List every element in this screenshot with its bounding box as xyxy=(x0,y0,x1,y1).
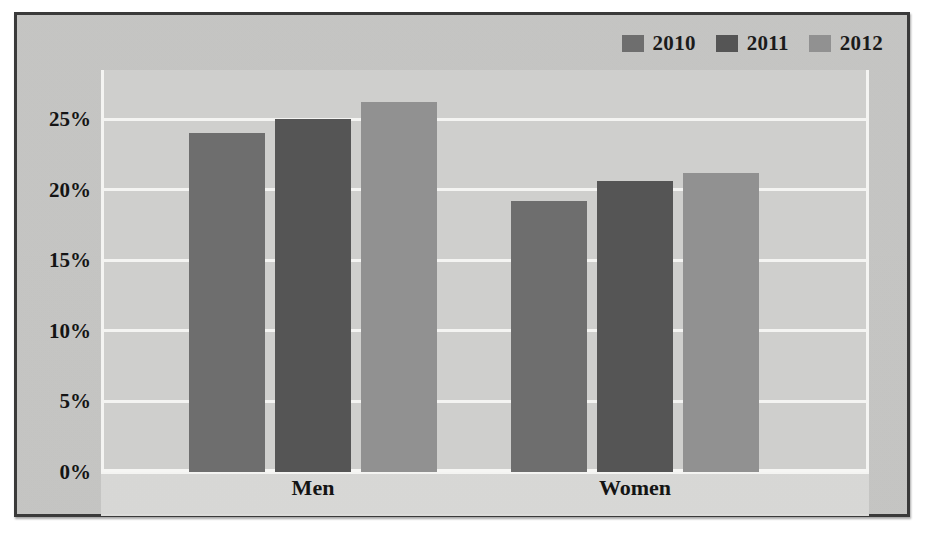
legend-swatch-2012 xyxy=(809,35,831,52)
y-tick-label-1: 5% xyxy=(21,391,91,412)
legend-label-2012: 2012 xyxy=(840,33,883,54)
legend-label-2011: 2011 xyxy=(747,33,789,54)
y-tick-label-5: 25% xyxy=(21,109,91,130)
y-tick-label-2: 10% xyxy=(21,320,91,341)
x-tick-label-women: Women xyxy=(599,477,671,499)
y-tick-label-4: 20% xyxy=(21,179,91,200)
legend-swatch-2011 xyxy=(716,35,738,52)
legend-label-2010: 2010 xyxy=(653,33,696,54)
y-tick-label-0: 0% xyxy=(21,462,91,483)
bar-women-2011[interactable] xyxy=(597,181,673,472)
x-tick-label-men: Men xyxy=(292,477,335,499)
bars-container xyxy=(101,70,869,472)
y-tick-label-3: 15% xyxy=(21,250,91,271)
bar-men-2012[interactable] xyxy=(361,102,437,472)
legend-swatch-2010 xyxy=(622,35,644,52)
legend-item-2012[interactable]: 2012 xyxy=(809,33,883,54)
legend-item-2011[interactable]: 2011 xyxy=(716,33,789,54)
chart-figure: 2010 2011 2012 0%5%10%15%20%25% MenWomen xyxy=(14,12,910,517)
chart-legend: 2010 2011 2012 xyxy=(622,33,883,54)
bar-men-2011[interactable] xyxy=(275,119,351,472)
bar-men-2010[interactable] xyxy=(189,133,265,472)
plot-area xyxy=(101,70,869,472)
bar-women-2012[interactable] xyxy=(683,173,759,472)
y-axis-tick-labels: 0%5%10%15%20%25% xyxy=(17,70,91,472)
legend-item-2010[interactable]: 2010 xyxy=(622,33,696,54)
x-axis-tick-labels: MenWomen xyxy=(101,477,869,517)
bar-women-2010[interactable] xyxy=(511,201,587,472)
